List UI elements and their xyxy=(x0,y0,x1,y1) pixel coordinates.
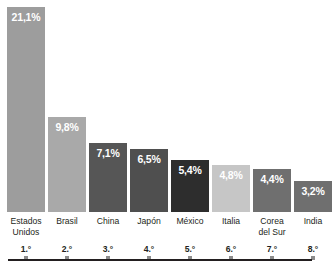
bar-3: 7,1% xyxy=(89,143,127,212)
rank-label-8: 8.° xyxy=(294,244,332,254)
bar-value-label: 3,2% xyxy=(294,185,332,197)
category-label-7: Corea del Sur xyxy=(250,216,294,237)
bar-6: 4,8% xyxy=(212,165,250,212)
bar-value-label: 21,1% xyxy=(7,11,45,23)
category-label-8: India xyxy=(291,216,335,227)
rank-label-2: 2.° xyxy=(48,244,86,254)
bar-1: 21,1% xyxy=(7,7,45,212)
category-label-1: Estados Unidos xyxy=(4,216,48,237)
bar-8: 3,2% xyxy=(294,181,332,212)
rank-label-1: 1.° xyxy=(7,244,45,254)
plot-area: 21,1%9,8%7,1%6,5%5,4%4,8%4,4%3,2% xyxy=(0,0,320,212)
category-label-4: Japón xyxy=(127,216,171,227)
category-label-2: Brasil xyxy=(45,216,89,227)
bar-value-label: 6,5% xyxy=(130,153,168,165)
bar-5: 5,4% xyxy=(171,160,209,212)
category-label-6: Italia xyxy=(209,216,253,227)
rank-labels-row: 1.°2.°3.°4.°5.°6.°7.°8.° xyxy=(0,244,320,267)
x-axis-line xyxy=(8,259,312,261)
bar-2: 9,8% xyxy=(48,117,86,212)
category-label-5: México xyxy=(168,216,212,227)
rank-label-5: 5.° xyxy=(171,244,209,254)
bar-value-label: 5,4% xyxy=(171,164,209,176)
bar-rect xyxy=(7,7,45,212)
bar-7: 4,4% xyxy=(253,169,291,212)
bar-4: 6,5% xyxy=(130,149,168,212)
category-label-3: China xyxy=(86,216,130,227)
rank-label-4: 4.° xyxy=(130,244,168,254)
bar-value-label: 4,4% xyxy=(253,173,291,185)
rank-label-3: 3.° xyxy=(89,244,127,254)
bar-value-label: 9,8% xyxy=(48,121,86,133)
rank-label-6: 6.° xyxy=(212,244,250,254)
rank-label-7: 7.° xyxy=(253,244,291,254)
bar-value-label: 4,8% xyxy=(212,169,250,181)
category-labels-row: Estados UnidosBrasilChinaJapónMéxicoItal… xyxy=(0,212,320,246)
bar-value-label: 7,1% xyxy=(89,147,127,159)
